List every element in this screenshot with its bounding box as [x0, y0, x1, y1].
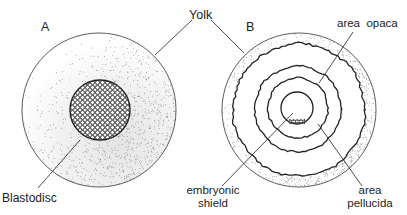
blastodisc-label: Blastodisc	[2, 192, 57, 205]
embryonic-shield-label-line1: embryonic	[178, 184, 248, 197]
embryonic-shield-label-line2: shield	[178, 197, 248, 210]
yolk-leader-a	[155, 20, 192, 55]
diagram-svg	[0, 0, 407, 215]
area-opaca-label: area opaca	[337, 17, 398, 30]
panel-a-label: A	[41, 21, 49, 34]
area-opaca-outer-edge	[233, 42, 366, 176]
area-pellucida-label-line2: pellucida	[335, 197, 405, 210]
area-pellucida-label-line1: area	[335, 184, 405, 197]
yolk-leader-b	[211, 20, 244, 53]
embryonic-shield-label: embryonic shield	[178, 184, 248, 210]
blastodisc	[70, 80, 130, 140]
area-pellucida-label: area pellucida	[335, 184, 405, 210]
egg-a	[22, 33, 176, 187]
diagram-canvas: A Yolk Blastodisc B area opaca embryonic…	[0, 0, 407, 215]
yolk-label: Yolk	[189, 9, 212, 22]
panel-b-label: B	[246, 21, 254, 34]
egg-b	[222, 33, 376, 187]
